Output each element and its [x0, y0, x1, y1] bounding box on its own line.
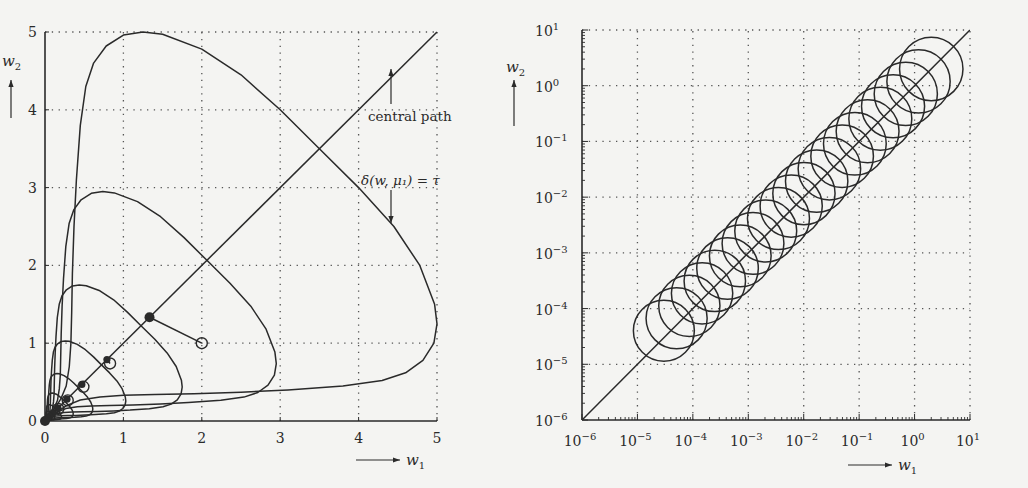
neighbourhood-circle	[760, 175, 822, 237]
x-tick-label: 100	[900, 431, 924, 449]
x-tick-label: 10−1	[841, 431, 874, 449]
central-path-point-marker	[54, 405, 61, 412]
neighbourhood-circle	[646, 288, 707, 349]
y-tick-label: 10−1	[535, 132, 568, 150]
neighbourhood-circle	[684, 250, 745, 311]
y-tick-label: 0	[28, 413, 37, 429]
level-curve-annotation: δ(w, μ₁) = τ	[361, 172, 440, 188]
x-tick-label: 101	[956, 431, 980, 449]
plot-area	[582, 30, 970, 420]
y-tick-label: 1	[28, 335, 37, 351]
neighbourhood-circle	[824, 112, 887, 175]
neighbourhood-circle	[709, 225, 771, 287]
x-axis-arrow-icon-head	[885, 462, 892, 467]
x-axis-arrow-icon-head	[393, 457, 400, 462]
plot-area	[40, 32, 437, 426]
x-tick-label: 1	[119, 430, 128, 446]
central-path-line	[45, 32, 437, 421]
y-tick-label: 10−5	[535, 355, 568, 373]
x-tick-label: 10−4	[675, 431, 708, 449]
x-tick-label: 10−3	[730, 431, 763, 449]
x-tick-label: 0	[41, 430, 50, 446]
neighbourhood-circle	[798, 137, 860, 199]
central-path-point-marker	[78, 381, 85, 388]
first-step-line	[150, 317, 202, 343]
central-path-point-marker	[145, 312, 155, 322]
central-path-annotation: central path	[368, 108, 452, 124]
x-tick-label: 4	[354, 430, 363, 446]
y-tick-label: 10−6	[535, 411, 568, 429]
neighbourhood-circle	[659, 275, 720, 336]
x-tick-label: 10−5	[619, 431, 652, 449]
neighbourhood-circle	[849, 87, 912, 150]
y-tick-label: 10−2	[535, 188, 568, 206]
y-tick-label: 5	[28, 24, 37, 40]
neighbourhood-circle	[722, 213, 784, 275]
neighbourhood-circle	[671, 263, 732, 324]
central-path-point-marker	[103, 356, 110, 363]
neighbourhood-circle	[633, 300, 694, 361]
y-tick-label: 100	[535, 77, 559, 95]
y-axis-label: w2	[506, 58, 525, 78]
y-tick-label: 101	[535, 21, 559, 39]
y-tick-label: 10−4	[535, 300, 568, 318]
y-tick-label: 3	[28, 180, 37, 196]
x-tick-label: 10−2	[785, 431, 818, 449]
neighbourhood-circle	[836, 100, 899, 163]
y-axis-arrow-icon-head	[8, 80, 13, 87]
y-tick-label: 2	[28, 257, 37, 273]
neighbourhood-circle	[811, 125, 874, 188]
x-tick-label: 10−6	[564, 431, 597, 449]
y-axis-arrow-icon-head	[511, 80, 516, 87]
linear-scale-plot: 012345012345w1w2central pathδ(w, μ₁) = τ	[0, 0, 490, 488]
y-tick-label: 10−3	[535, 244, 568, 262]
y-tick-label: 4	[28, 102, 37, 118]
x-axis-label: w1	[406, 451, 425, 471]
central-path-point-marker	[63, 396, 70, 403]
neighbourhood-circle	[747, 188, 809, 250]
x-tick-label: 3	[276, 430, 285, 446]
central-path-arrow-icon-head	[388, 69, 393, 76]
central-path-line	[582, 30, 970, 420]
x-axis-label: w1	[898, 456, 917, 476]
neighbourhood-circle	[697, 238, 759, 300]
right-chart-panel: 10−610−510−410−310−210−110010110−610−510…	[490, 0, 1028, 488]
x-tick-label: 2	[197, 430, 206, 446]
y-axis-label: w2	[2, 52, 21, 72]
central-path-point-marker	[40, 416, 50, 426]
left-chart-panel: 012345012345w1w2central pathδ(w, μ₁) = τ	[0, 0, 490, 488]
x-tick-label: 5	[433, 430, 442, 446]
log-scale-plot: 10−610−510−410−310−210−110010110−610−510…	[490, 0, 1028, 488]
neighbourhood-circle	[785, 150, 847, 212]
